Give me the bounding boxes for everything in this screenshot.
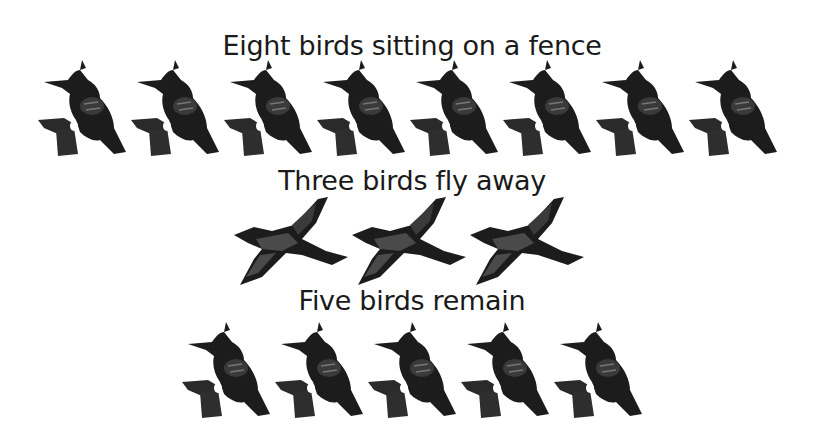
- perched-bird-icon: [178, 320, 271, 425]
- perched-bird-icon: [220, 58, 313, 163]
- perched-bird-icon: [313, 58, 406, 163]
- perched-bird-icon: [457, 320, 550, 425]
- row-remaining-birds: [178, 320, 643, 425]
- caption-five-remain: Five birds remain: [0, 285, 824, 316]
- perched-bird-icon: [34, 58, 127, 163]
- flying-bird-icon: [232, 195, 350, 290]
- perched-bird-icon: [685, 58, 778, 163]
- row-flying-birds: [232, 195, 586, 290]
- perched-bird-icon: [406, 58, 499, 163]
- caption-eight-birds: Eight birds sitting on a fence: [0, 30, 824, 61]
- caption-three-fly-away: Three birds fly away: [0, 165, 824, 196]
- perched-bird-icon: [592, 58, 685, 163]
- perched-bird-icon: [127, 58, 220, 163]
- perched-bird-icon: [271, 320, 364, 425]
- flying-bird-icon: [350, 195, 468, 290]
- perched-bird-icon: [550, 320, 643, 425]
- row-sitting-birds: [34, 58, 778, 163]
- flying-bird-icon: [468, 195, 586, 290]
- perched-bird-icon: [499, 58, 592, 163]
- perched-bird-icon: [364, 320, 457, 425]
